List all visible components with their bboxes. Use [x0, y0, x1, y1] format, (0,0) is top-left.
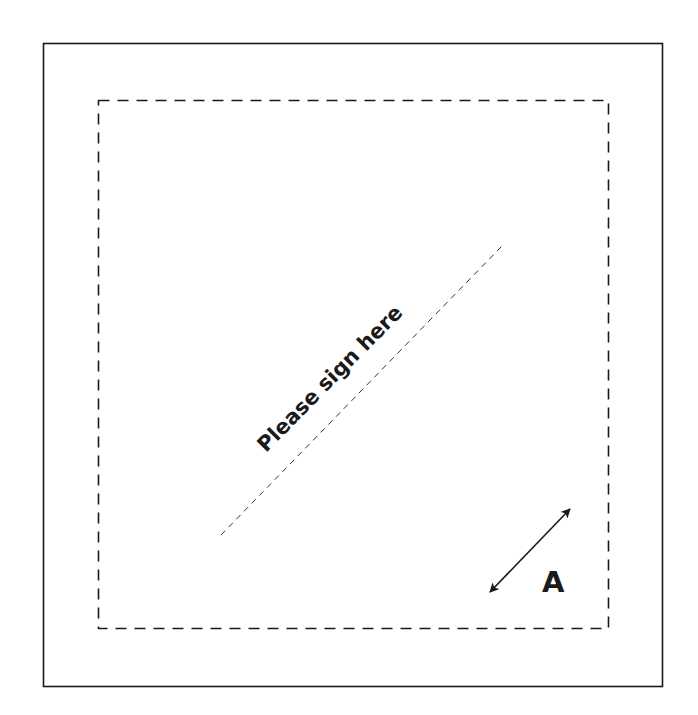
dimension-label: A	[542, 565, 565, 599]
signature-line	[221, 246, 502, 535]
signature-prompt: Please sign here	[252, 300, 407, 456]
signature-box-diagram: Please sign here A	[0, 0, 698, 715]
